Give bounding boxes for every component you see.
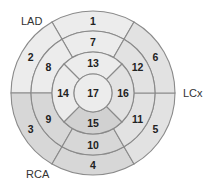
segment-label-15: 15: [87, 117, 99, 129]
segment-label-3: 3: [28, 123, 34, 135]
segment-label-10: 10: [87, 139, 99, 151]
artery-label-lcx: LCx: [183, 88, 203, 99]
segment-label-17: 17: [87, 87, 99, 99]
artery-label-lad: LAD: [21, 16, 42, 27]
segment-label-1: 1: [90, 15, 96, 27]
segment-label-6: 6: [152, 51, 158, 63]
segment-label-13: 13: [87, 57, 99, 69]
segment-label-8: 8: [45, 61, 51, 73]
segment-label-4: 4: [90, 159, 96, 171]
segment-label-14: 14: [57, 87, 69, 99]
bullseye-plot: 1234567891011121314151617: [0, 0, 213, 189]
segment-label-16: 16: [117, 87, 129, 99]
segment-label-12: 12: [132, 61, 144, 73]
segment-label-7: 7: [90, 36, 96, 48]
segment-label-2: 2: [28, 51, 34, 63]
segment-label-9: 9: [45, 113, 51, 125]
segment-label-5: 5: [152, 123, 158, 135]
artery-label-rca: RCA: [26, 169, 49, 180]
segment-label-11: 11: [132, 113, 143, 125]
